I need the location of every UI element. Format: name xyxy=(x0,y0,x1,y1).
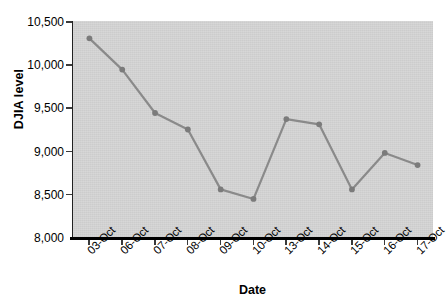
plot-area xyxy=(72,21,433,238)
y-tick-label: 8,000 xyxy=(12,231,64,245)
y-tick-label: 10,500 xyxy=(12,15,64,29)
data-point xyxy=(316,121,322,127)
data-point xyxy=(152,110,158,116)
data-point xyxy=(251,196,257,202)
data-point xyxy=(119,67,125,73)
data-markers xyxy=(87,35,421,201)
data-point xyxy=(87,35,93,41)
data-point xyxy=(185,127,191,133)
data-point xyxy=(283,116,289,122)
y-tick-label: 10,000 xyxy=(12,58,64,72)
data-line xyxy=(89,38,417,199)
y-axis-tick-labels: 10,500 10,000 9,500 9,000 8,500 8,000 xyxy=(8,0,64,305)
line-series-svg xyxy=(73,21,434,238)
data-point xyxy=(415,162,421,168)
data-point xyxy=(349,186,355,192)
x-axis-title: Date xyxy=(72,283,433,297)
y-tick-label: 9,500 xyxy=(12,101,64,115)
y-tick-label: 8,500 xyxy=(12,188,64,202)
data-point xyxy=(382,150,388,156)
data-point xyxy=(218,186,224,192)
y-tick-label: 9,000 xyxy=(12,145,64,159)
